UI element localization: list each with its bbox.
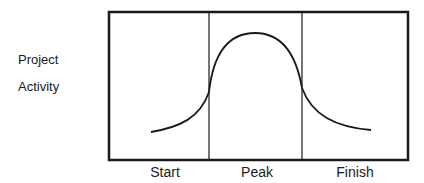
- chart-frame: [109, 12, 408, 160]
- phase-label-start: Start: [150, 164, 180, 180]
- activity-curve-diagram: [0, 0, 424, 183]
- activity-curve: [151, 33, 371, 132]
- phase-label-finish: Finish: [336, 164, 373, 180]
- phase-label-peak: Peak: [241, 164, 273, 180]
